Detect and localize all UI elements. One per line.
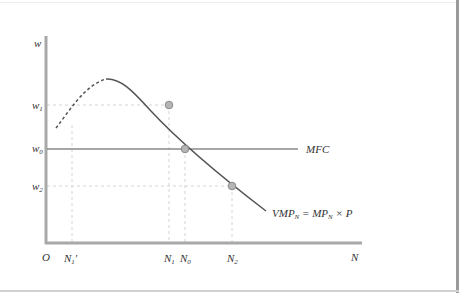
vmp-curve-dashed [56, 79, 106, 128]
vmp-mfc-diagram: w N O w1 w0 w2 N1′ N1 N0 N2 MFC VMPN = M… [0, 0, 464, 293]
origin-label: O [42, 252, 50, 263]
x-tick-n1: N1 [164, 253, 175, 268]
point-n2-w2 [228, 182, 236, 190]
x-tick-n1prime: N1′ [64, 253, 77, 268]
guide-lines [47, 105, 232, 242]
y-tick-w0: w0 [32, 143, 43, 158]
point-n0-w0 [181, 145, 189, 153]
x-tick-n0: N0 [180, 253, 191, 268]
y-tick-w2: w2 [32, 181, 43, 196]
vmp-label: VMPN = MPN × P [272, 208, 352, 223]
y-tick-w1: w1 [32, 100, 43, 115]
x-axis-label: N [351, 252, 358, 263]
y-axis-label: w [34, 38, 41, 49]
diagram-canvas [0, 0, 464, 293]
mfc-label: MFC [306, 144, 329, 155]
x-tick-n2: N2 [227, 253, 238, 268]
point-n1-w1 [165, 101, 173, 109]
